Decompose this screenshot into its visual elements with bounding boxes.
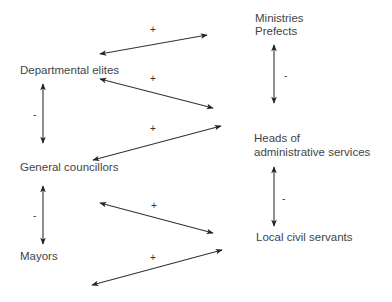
node-local-civil-servants: Local civil servants xyxy=(256,230,353,244)
sign-minus-2: - xyxy=(33,211,36,221)
arrow-councillors-heads xyxy=(93,126,221,160)
arrow-elites-heads xyxy=(100,79,213,108)
node-administrative-services: administrative services xyxy=(254,145,370,159)
sign-plus-5: + xyxy=(150,253,156,263)
sign-plus-4: + xyxy=(151,201,157,211)
node-departmental-elites: Departmental elites xyxy=(20,63,119,77)
sign-plus-1: + xyxy=(150,25,156,35)
node-heads-of: Heads of xyxy=(254,131,300,145)
sign-minus-1: - xyxy=(33,110,36,120)
sign-minus-4: - xyxy=(282,194,285,204)
sign-minus-3: - xyxy=(284,71,287,81)
node-general-councillors: General councillors xyxy=(20,160,118,174)
arrow-mayors-localservants xyxy=(92,250,222,285)
arrow-elites-ministries xyxy=(100,35,207,54)
node-ministries: Ministries xyxy=(255,11,304,25)
sign-plus-3: + xyxy=(150,124,156,134)
node-prefects: Prefects xyxy=(255,24,297,38)
node-mayors: Mayors xyxy=(20,249,58,263)
sign-plus-2: + xyxy=(150,74,156,84)
